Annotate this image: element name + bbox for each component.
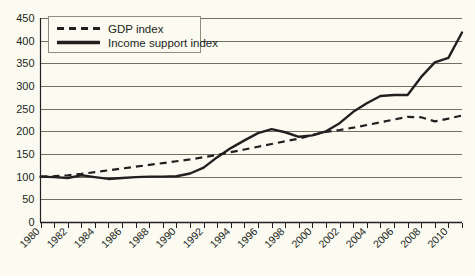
line-chart: 050100150200250300350400450 198019821984… <box>0 0 475 276</box>
legend-label-income-support-index: Income support index <box>108 37 218 49</box>
y-axis-tick-label: 50 <box>22 193 34 205</box>
y-axis-tick-label: 400 <box>16 35 34 47</box>
y-axis-tick-label: 250 <box>16 103 34 115</box>
y-axis-tick-label: 450 <box>16 12 34 24</box>
y-axis-tick-label: 150 <box>16 148 34 160</box>
chart-legend: GDP index Income support index <box>49 17 219 53</box>
legend-label-gdp-index: GDP index <box>108 23 164 35</box>
y-axis-tick-label: 100 <box>16 171 34 183</box>
chart-container: 050100150200250300350400450 198019821984… <box>0 0 475 276</box>
y-axis-tick-label: 200 <box>16 125 34 137</box>
y-axis-tick-label: 350 <box>16 57 34 69</box>
y-axis-tick-label: 300 <box>16 80 34 92</box>
